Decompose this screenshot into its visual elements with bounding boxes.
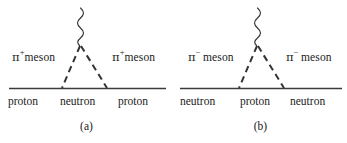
baryon-label-left: neutron [180, 96, 215, 108]
baryon-label-left: proton [8, 96, 38, 108]
meson-word: meson [301, 51, 332, 63]
meson-line-left [239, 46, 257, 88]
meson-label-left: π−meson [188, 52, 234, 64]
photon-wavy-line [78, 8, 84, 46]
meson-word: meson [125, 51, 156, 63]
pi-charge: − [196, 47, 201, 57]
pi-symbol: π [12, 50, 20, 64]
diagram-a: π+meson π+meson proton neutron proton (a… [0, 0, 173, 143]
meson-line-right [258, 46, 284, 88]
meson-label-right: π−meson [286, 52, 332, 64]
baryon-label-middle: proton [240, 96, 270, 108]
pi-charge: + [20, 47, 25, 57]
meson-label-left: π+meson [12, 52, 55, 64]
baryon-label-right: proton [118, 96, 148, 108]
pi-charge: − [294, 47, 299, 57]
pi-charge: + [120, 47, 125, 57]
pi-symbol: π [112, 50, 120, 64]
diagram-a-caption: (a) [0, 121, 173, 133]
diagram-b: π−meson π−meson neutron proton neutron (… [174, 0, 347, 143]
diagram-b-caption: (b) [174, 121, 347, 133]
pi-symbol: π [286, 50, 294, 64]
meson-word: meson [25, 51, 56, 63]
meson-line-right [81, 46, 107, 88]
baryon-label-middle: neutron [60, 96, 95, 108]
meson-exchange-figure: π+meson π+meson proton neutron proton (a… [0, 0, 347, 143]
baryon-label-right: neutron [290, 96, 325, 108]
meson-word: meson [203, 51, 234, 63]
photon-wavy-line [255, 8, 261, 46]
meson-line-left [62, 46, 80, 88]
meson-label-right: π+meson [112, 52, 155, 64]
pi-symbol: π [188, 50, 196, 64]
